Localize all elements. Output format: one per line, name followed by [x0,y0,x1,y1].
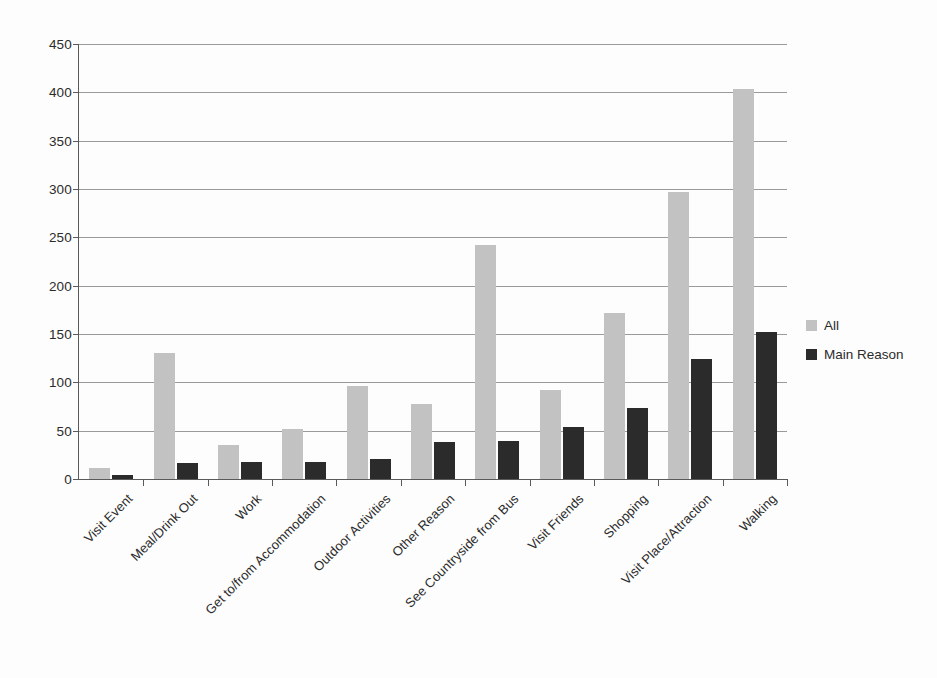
bar-main-reason [112,475,133,479]
bar-main-reason [563,427,584,479]
chart-legend: AllMain Reason [806,318,904,376]
bar-all [540,390,561,479]
x-axis-category-label: Visit Event [81,491,136,546]
x-tick-mark [530,479,531,486]
y-axis-tick-label: 100 [49,375,72,390]
bar-group [79,44,143,479]
legend-item: Main Reason [806,347,904,362]
x-tick-mark [787,479,788,486]
bar-main-reason [756,332,777,479]
bar-all [733,89,754,479]
x-axis-category-label: Get to/from Accommodation [203,491,329,617]
bar-group [530,44,594,479]
x-axis-category-label: Visit Friends [524,491,586,553]
bar-group [594,44,658,479]
bar-group [272,44,336,479]
y-axis-tick-label: 250 [49,230,72,245]
y-axis-tick-label: 400 [49,85,72,100]
legend-item-label: Main Reason [824,347,904,362]
bar-all [154,353,175,479]
bar-all [347,386,368,479]
x-tick-mark [594,479,595,486]
bar-all [411,404,432,479]
y-axis-tick-label: 300 [49,182,72,197]
y-axis-tick-label: 50 [57,423,72,438]
x-tick-mark [465,479,466,486]
bar-main-reason [498,441,519,479]
bar-group [143,44,207,479]
y-axis-tick-label: 350 [49,133,72,148]
x-axis-category-label: Other Reason [389,491,458,560]
x-axis-category-label-text: Meal/Drink Out [127,491,200,564]
x-tick-mark [658,479,659,486]
bar-main-reason [177,463,198,479]
x-tick-mark [208,479,209,486]
y-axis-tick-label: 450 [49,37,72,52]
bar-group [465,44,529,479]
y-tick-mark-0 [73,479,79,480]
legend-item-label: All [824,318,839,333]
x-axis-category-label-text: Visit Event [81,491,136,546]
x-axis-category-label-text: Get to/from Accommodation [203,491,329,617]
x-axis-category-label-text: Walking [736,491,779,534]
bar-main-reason [305,462,326,479]
y-axis-tick-label: 200 [49,278,72,293]
x-tick-mark [723,479,724,486]
bar-all [475,245,496,479]
bar-main-reason [434,442,455,479]
legend-swatch-icon [806,320,817,331]
x-axis-category-label-text: See Countryside from Bus [402,491,522,611]
bar-all [668,192,689,479]
bar-group [723,44,787,479]
legend-swatch-icon [806,349,817,360]
y-axis-tick-label: 150 [49,327,72,342]
bar-all [218,445,239,479]
x-tick-mark [272,479,273,486]
x-axis-category-label-text: Shopping [601,491,651,541]
bar-all [89,468,110,479]
x-tick-mark [143,479,144,486]
x-axis-category-label: See Countryside from Bus [402,491,522,611]
plot-area: 050100150200250300350400450Visit EventMe… [78,44,787,480]
chart-page: 050100150200250300350400450Visit EventMe… [0,0,937,678]
x-axis-category-label: Meal/Drink Out [127,491,200,564]
bar-group [401,44,465,479]
bar-main-reason [691,359,712,479]
x-axis-category-label: Shopping [601,491,651,541]
bar-group [658,44,722,479]
bar-main-reason [370,459,391,479]
legend-item: All [806,318,904,333]
x-tick-mark [401,479,402,486]
bar-group [208,44,272,479]
bar-group [336,44,400,479]
x-axis-category-label: Work [232,491,264,523]
bar-all [604,313,625,479]
x-axis-category-label-text: Visit Friends [524,491,586,553]
x-axis-category-label-text: Other Reason [389,491,458,560]
bar-all [282,429,303,479]
x-tick-mark [336,479,337,486]
bar-main-reason [627,408,648,479]
x-axis-category-label: Walking [736,491,779,534]
bar-main-reason [241,462,262,479]
x-axis-category-label-text: Work [232,491,264,523]
y-axis-tick-label: 0 [64,472,72,487]
